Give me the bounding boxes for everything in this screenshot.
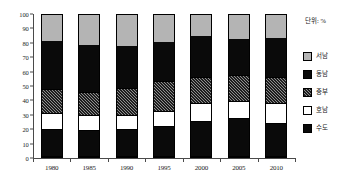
- bar-segment[interactable]: [229, 119, 249, 157]
- bar-segment[interactable]: [117, 130, 137, 157]
- bar-segment[interactable]: [42, 114, 62, 130]
- bar-segment[interactable]: [117, 15, 137, 46]
- bar-segment[interactable]: [117, 116, 137, 130]
- legend-item[interactable]: 중부: [303, 88, 328, 96]
- bar-segment[interactable]: [154, 127, 174, 157]
- bar-segment[interactable]: [191, 122, 211, 158]
- y-tick: 60: [22, 68, 33, 75]
- unit-annotation: 단위: %: [305, 15, 326, 25]
- x-tick-label: 1985: [83, 164, 96, 172]
- x-tick-mark: [183, 158, 184, 162]
- legend-swatch-icon: [303, 70, 312, 79]
- y-tick: 90: [22, 25, 33, 32]
- bar-segment[interactable]: [266, 15, 286, 38]
- bar-segment[interactable]: [79, 15, 99, 45]
- bar-segment[interactable]: [42, 90, 62, 114]
- y-tick-label: 20: [22, 126, 28, 133]
- x-tick-mark: [220, 158, 221, 162]
- bar-column[interactable]: [70, 14, 107, 158]
- legend-label: 동남: [316, 71, 328, 78]
- y-tick-label: 0: [25, 155, 28, 162]
- bar-segment[interactable]: [154, 112, 174, 128]
- y-tick: 40: [22, 97, 33, 104]
- y-tick-label: 90: [22, 25, 28, 32]
- legend-item[interactable]: 수도: [303, 124, 328, 132]
- y-tick-label: 50: [22, 83, 28, 90]
- x-label-cell: 1985: [70, 164, 107, 172]
- bar-segment[interactable]: [266, 104, 286, 124]
- x-label-cell: 2005: [220, 164, 257, 172]
- bar-stack[interactable]: [153, 14, 175, 158]
- bar-stack[interactable]: [116, 14, 138, 158]
- bar-column[interactable]: [220, 14, 257, 158]
- legend-label: 중부: [316, 89, 328, 96]
- legend-label: 호남: [316, 107, 328, 114]
- x-label-cell: 2000: [183, 164, 220, 172]
- bar-segment[interactable]: [191, 36, 211, 77]
- bar-column[interactable]: [33, 14, 70, 158]
- bar-column[interactable]: [108, 14, 145, 158]
- bar-segment[interactable]: [42, 130, 62, 157]
- bar-segment[interactable]: [191, 104, 211, 121]
- bar-segment[interactable]: [266, 124, 286, 157]
- bar-column[interactable]: [145, 14, 182, 158]
- bar-segment[interactable]: [191, 78, 211, 105]
- x-label-cell: 1990: [108, 164, 145, 172]
- bar-segment[interactable]: [229, 102, 249, 119]
- legend-item[interactable]: 동남: [303, 70, 328, 78]
- bar-segment[interactable]: [79, 116, 99, 132]
- y-tick: 30: [22, 111, 33, 118]
- bar-stack[interactable]: [228, 14, 250, 158]
- bar-segment[interactable]: [42, 15, 62, 41]
- bar-segment[interactable]: [42, 41, 62, 91]
- bar-segment[interactable]: [266, 78, 286, 105]
- bar-segment[interactable]: [266, 38, 286, 78]
- bar-segment[interactable]: [229, 15, 249, 39]
- y-tick: 70: [22, 54, 33, 61]
- legend: 서남동남중부호남수도: [303, 52, 328, 142]
- legend-item[interactable]: 호남: [303, 106, 328, 114]
- legend-item[interactable]: 서남: [303, 52, 328, 60]
- bar-segment[interactable]: [229, 39, 249, 76]
- x-tick-label: 1995: [157, 164, 170, 172]
- y-tick-label: 10: [22, 140, 28, 147]
- x-tick-label: 1990: [120, 164, 133, 172]
- legend-swatch-icon: [303, 88, 312, 97]
- bar-segment[interactable]: [79, 45, 99, 93]
- plot-area: [33, 14, 295, 158]
- x-axis-ticks: [33, 158, 295, 163]
- bar-stack[interactable]: [190, 14, 212, 158]
- bar-segment[interactable]: [79, 131, 99, 157]
- y-tick-label: 60: [22, 68, 28, 75]
- bar-segment[interactable]: [117, 89, 137, 116]
- x-tick-mark: [145, 158, 146, 162]
- bar-column[interactable]: [258, 14, 295, 158]
- x-label-cell: 2010: [258, 164, 295, 172]
- bar-stack[interactable]: [265, 14, 287, 158]
- stacked-bar-chart: 단위: % 0102030405060708090100 19801985199…: [0, 0, 343, 187]
- bar-segment[interactable]: [79, 93, 99, 116]
- bar-segment[interactable]: [154, 82, 174, 112]
- y-tick: 80: [22, 39, 33, 46]
- x-tick-mark: [33, 158, 34, 162]
- bar-column[interactable]: [183, 14, 220, 158]
- bar-segment[interactable]: [191, 15, 211, 36]
- bar-segment[interactable]: [117, 46, 137, 89]
- bar-segment[interactable]: [229, 76, 249, 102]
- y-tick-label: 80: [22, 39, 28, 46]
- bar-stack[interactable]: [78, 14, 100, 158]
- bars-layer: [33, 14, 295, 158]
- y-tick: 20: [22, 126, 33, 133]
- legend-swatch-icon: [303, 124, 312, 133]
- bar-segment[interactable]: [154, 15, 174, 42]
- y-tick-label: 30: [22, 111, 28, 118]
- x-tick-label: 1980: [45, 164, 58, 172]
- y-tick-label: 100: [19, 11, 28, 18]
- x-tick-label: 2010: [270, 164, 283, 172]
- y-tick-label: 70: [22, 54, 28, 61]
- x-tick-label: 2000: [195, 164, 208, 172]
- legend-swatch-icon: [303, 106, 312, 115]
- bar-stack[interactable]: [41, 14, 63, 158]
- bar-segment[interactable]: [154, 42, 174, 82]
- legend-label: 수도: [316, 125, 328, 132]
